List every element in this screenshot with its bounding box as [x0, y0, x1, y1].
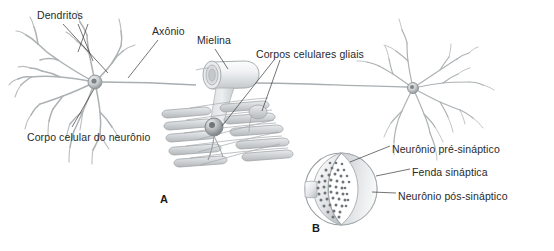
- leader-gliais-2: [262, 60, 280, 111]
- right-neuron: [357, 19, 494, 160]
- label-corpo-celular-do-neuronio: Corpo celular do neurônio: [27, 131, 150, 143]
- diagram-canvas: [0, 0, 554, 251]
- label-fenda-sinaptica: Fenda sináptica: [412, 166, 488, 178]
- glial-fiber-network: [162, 98, 293, 167]
- label-corpos-celulares-gliais: Corpos celulares gliais: [256, 48, 364, 60]
- label-axonio: Axônio: [152, 25, 185, 37]
- synapse-detail: [305, 153, 377, 225]
- label-neuronio-pre-sinaptico: Neurônio pré-sináptico: [392, 143, 500, 155]
- leader-fenda: [376, 169, 410, 176]
- label-mielina: Mielina: [197, 34, 231, 46]
- leader-corpo: [72, 89, 94, 127]
- label-dendritos: Dendritos: [37, 9, 83, 21]
- label-neuronio-pos-sinaptico: Neurônio pós-sináptico: [398, 190, 508, 202]
- neuron-diagram-figure: Dendritos Axônio Mielina Corpos celulare…: [0, 0, 554, 251]
- leader-pre: [350, 146, 390, 162]
- panel-letter-b: B: [312, 222, 320, 234]
- panel-letter-a: A: [160, 193, 168, 205]
